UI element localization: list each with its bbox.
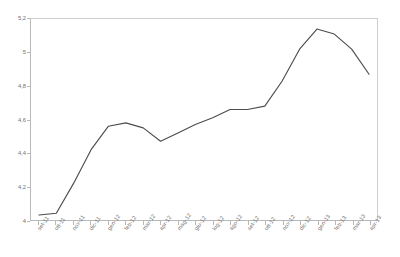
y-axis-tick-label: 5: [0, 49, 26, 55]
x-axis-tick-mark: [55, 221, 56, 225]
line-series-svg: [31, 19, 377, 220]
x-axis-tick-mark: [300, 221, 301, 225]
x-axis-tick-mark: [318, 221, 319, 225]
x-axis-tick-mark: [38, 221, 39, 225]
x-axis-tick-mark: [143, 221, 144, 225]
data-line-serie1: [39, 29, 369, 215]
x-axis-tick-mark: [125, 221, 126, 225]
y-axis-tick-label: 5,2: [0, 15, 26, 21]
x-axis-tick-mark: [73, 221, 74, 225]
y-axis-tick-mark: [27, 221, 30, 222]
x-axis-tick-mark: [213, 221, 214, 225]
x-axis-tick-mark: [90, 221, 91, 225]
y-axis-tick-label: 4,4: [0, 150, 26, 156]
x-axis-tick-mark: [353, 221, 354, 225]
x-axis-tick-mark: [178, 221, 179, 225]
y-axis-tick-label: 4,2: [0, 184, 26, 190]
x-axis-tick-mark: [108, 221, 109, 225]
x-axis-tick-mark: [248, 221, 249, 225]
y-axis-tick-label: 4: [0, 218, 26, 224]
x-axis-tick-mark: [335, 221, 336, 225]
x-axis-tick-mark: [230, 221, 231, 225]
x-axis-tick-mark: [265, 221, 266, 225]
chart-container: 44,24,44,64,855,2 set-11ott-11nov-11dic-…: [0, 0, 400, 257]
y-axis-tick-label: 4,6: [0, 117, 26, 123]
x-axis-tick-mark: [195, 221, 196, 225]
x-axis-tick-mark: [370, 221, 371, 225]
plot-area: [30, 18, 378, 221]
x-axis-tick-mark: [160, 221, 161, 225]
y-axis-tick-label: 4,8: [0, 83, 26, 89]
x-axis-tick-mark: [283, 221, 284, 225]
